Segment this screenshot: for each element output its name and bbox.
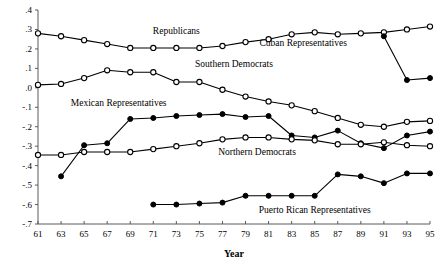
chart-container: .4.3.2.1.0-.1-.2-.3-.4-.5-.6-.7616365676… (0, 0, 448, 267)
data-point (151, 115, 156, 120)
data-point (289, 32, 294, 37)
data-point (59, 174, 64, 179)
series-label-mexican-representatives: Mexican Representatives (71, 98, 167, 108)
data-point (358, 31, 363, 36)
data-point (174, 114, 179, 119)
data-point (335, 128, 340, 133)
data-point (220, 112, 225, 117)
data-point (381, 140, 386, 145)
series-line (61, 114, 430, 176)
y-tick-label: .2 (25, 44, 32, 54)
data-point (427, 118, 432, 123)
data-point (58, 81, 63, 86)
data-point (335, 142, 340, 147)
data-point (266, 135, 271, 140)
x-axis-title: Year (224, 248, 245, 259)
data-point (197, 45, 202, 50)
data-point (128, 116, 133, 121)
chart-series (35, 24, 432, 207)
series-line (384, 36, 430, 80)
data-point (35, 82, 40, 87)
data-point (151, 147, 156, 152)
data-point (151, 45, 156, 50)
data-point (82, 38, 87, 43)
series-label-southern-democrats: Southern Democrats (195, 59, 273, 69)
series-republicans (35, 24, 432, 51)
data-point (174, 45, 179, 50)
data-point (174, 144, 179, 149)
data-point (312, 193, 317, 198)
y-tick-label: -.7 (22, 219, 32, 229)
x-tick-label: 85 (310, 229, 320, 239)
data-point (174, 202, 179, 207)
y-tick-label: -.5 (22, 180, 32, 190)
series-mexican-representatives (59, 112, 433, 179)
x-tick-label: 91 (379, 229, 388, 239)
x-tick-label: 61 (34, 229, 43, 239)
series-cuban-representatives (381, 34, 432, 83)
data-point (197, 201, 202, 206)
data-point (266, 99, 271, 104)
data-point (289, 193, 294, 198)
data-point (58, 152, 63, 157)
data-point (381, 34, 386, 39)
data-point (197, 141, 202, 146)
data-point (128, 45, 133, 50)
series-label-cuban-representatives: Cuban Representatives (260, 38, 348, 48)
x-tick-label: 73 (172, 229, 182, 239)
series-label-northern-democrats: Northern Democrats (218, 147, 296, 157)
data-point (105, 41, 110, 46)
series-line (38, 27, 430, 48)
data-point (358, 122, 363, 127)
data-point (381, 146, 386, 151)
data-point (404, 171, 409, 176)
data-point (220, 87, 225, 92)
data-point (151, 202, 156, 207)
series-annotations: RepublicansSouthern DemocratsMexican Rep… (71, 26, 371, 215)
data-point (289, 137, 294, 142)
data-point (197, 113, 202, 118)
x-tick-label: 89 (356, 229, 366, 239)
x-tick-label: 71 (149, 229, 158, 239)
data-point (197, 79, 202, 84)
data-point (404, 143, 409, 148)
data-point (35, 31, 40, 36)
data-point (220, 200, 225, 205)
data-point (82, 143, 87, 148)
data-point (220, 137, 225, 142)
data-point (428, 171, 433, 176)
data-point (404, 133, 409, 138)
data-point (427, 24, 432, 29)
x-tick-label: 75 (195, 229, 205, 239)
y-tick-label: .0 (25, 83, 32, 93)
data-point (266, 193, 271, 198)
data-point (105, 141, 110, 146)
data-point (289, 103, 294, 108)
data-point (243, 94, 248, 99)
x-tick-label: 67 (103, 229, 113, 239)
data-point (82, 75, 87, 80)
x-tick-label: 63 (57, 229, 67, 239)
x-tick-label: 93 (402, 229, 412, 239)
y-tick-label: -.1 (22, 102, 32, 112)
series-puerto-rican-representatives (151, 171, 433, 207)
x-tick-label: 79 (241, 229, 251, 239)
data-point (404, 78, 409, 83)
data-point (105, 149, 110, 154)
data-point (335, 172, 340, 177)
x-tick-label: 83 (287, 229, 297, 239)
data-point (151, 70, 156, 75)
data-point (428, 129, 433, 134)
data-point (381, 124, 386, 129)
x-tick-label: 65 (80, 229, 90, 239)
data-point (243, 40, 248, 45)
y-tick-label: -.3 (22, 141, 32, 151)
line-chart-plot: .4.3.2.1.0-.1-.2-.3-.4-.5-.6-.7616365676… (0, 0, 448, 267)
data-point (105, 68, 110, 73)
data-point (427, 144, 432, 149)
data-point (243, 135, 248, 140)
y-tick-label: -.4 (22, 161, 32, 171)
y-tick-label: .1 (25, 63, 32, 73)
y-tick-label: .4 (25, 5, 32, 15)
data-point (243, 115, 248, 120)
